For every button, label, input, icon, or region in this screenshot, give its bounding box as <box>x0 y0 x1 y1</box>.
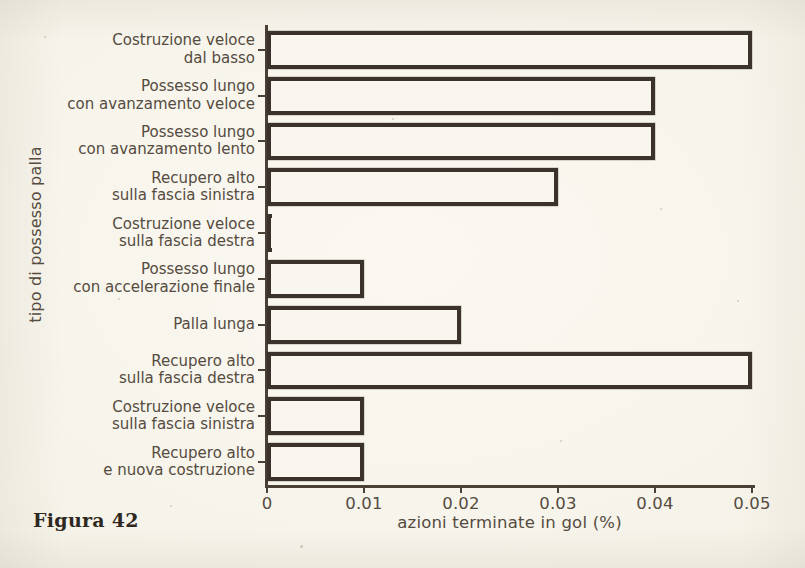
bar-row <box>267 73 752 119</box>
x-axis-tick-label: 0 <box>262 494 273 513</box>
y-axis-tick <box>258 415 267 417</box>
bar-row <box>267 348 752 394</box>
category-label: Possesso lungo con accelerazione finale <box>73 261 261 296</box>
x-axis-tick-label: 0.02 <box>442 494 480 513</box>
y-axis-tick <box>258 369 267 371</box>
bar-row <box>267 439 752 485</box>
bar <box>267 168 558 206</box>
category-label-row: Recupero alto sulla fascia destra <box>25 348 261 394</box>
x-axis-tick-label: 0.03 <box>539 494 577 513</box>
bar-row <box>267 302 752 348</box>
x-axis-tick-label: 0.05 <box>733 494 771 513</box>
category-label: Palla lunga <box>173 316 261 334</box>
x-axis-tick-label: 0.04 <box>636 494 674 513</box>
y-axis-tick <box>258 49 267 51</box>
y-axis-tick <box>258 461 267 463</box>
y-axis-tick <box>258 324 267 326</box>
x-axis-tick <box>751 485 753 493</box>
category-label-row: Possesso lungo con accelerazione finale <box>25 256 261 302</box>
x-axis-tick-label: 0.01 <box>345 494 383 513</box>
category-label-row: Recupero alto sulla fascia sinistra <box>25 164 261 210</box>
category-label: Possesso lungo con avanzamento lento <box>78 124 261 159</box>
category-label: Recupero alto e nuova costruzione <box>103 445 261 480</box>
category-label-row: Costruzione veloce sulla fascia sinistra <box>25 393 261 439</box>
x-axis-line <box>265 485 755 488</box>
category-label: Costruzione veloce sulla fascia destra <box>112 216 261 251</box>
bar-row <box>267 164 752 210</box>
category-label: Costruzione veloce dal basso <box>112 32 261 67</box>
y-axis-title: tipo di possesso palla <box>26 105 45 365</box>
y-axis-tick <box>258 140 267 142</box>
x-axis-tick <box>266 485 268 493</box>
category-label: Recupero alto sulla fascia sinistra <box>112 170 261 205</box>
x-axis-tick <box>557 485 559 493</box>
category-label: Possesso lungo con avanzamento veloce <box>67 78 261 113</box>
x-axis-tick <box>654 485 656 493</box>
bar <box>267 352 752 390</box>
bar <box>267 260 364 298</box>
bar <box>267 397 364 435</box>
bar-row <box>267 210 752 256</box>
category-label-row: Costruzione veloce dal basso <box>25 27 261 73</box>
bar-row <box>267 256 752 302</box>
category-label: Recupero alto sulla fascia destra <box>119 353 261 388</box>
category-axis-labels: Costruzione veloce dal bassoPossesso lun… <box>25 27 261 485</box>
x-axis-title: azioni terminate in gol (%) <box>267 513 752 532</box>
category-label-row: Possesso lungo con avanzamento lento <box>25 119 261 165</box>
plot-area <box>267 27 752 485</box>
bar <box>267 214 272 252</box>
x-axis-tick <box>363 485 365 493</box>
category-label-row: Costruzione veloce sulla fascia destra <box>25 210 261 256</box>
bar-row <box>267 393 752 439</box>
bar-row <box>267 27 752 73</box>
bar <box>267 443 364 481</box>
bar-chart: Costruzione veloce dal bassoPossesso lun… <box>0 0 805 568</box>
y-axis-tick <box>258 95 267 97</box>
y-axis-tick <box>258 278 267 280</box>
x-axis-tick <box>460 485 462 493</box>
bar <box>267 77 655 115</box>
bar <box>267 306 461 344</box>
y-axis-tick <box>258 186 267 188</box>
bar-row <box>267 119 752 165</box>
category-label-row: Recupero alto e nuova costruzione <box>25 439 261 485</box>
category-label: Costruzione veloce sulla fascia sinistra <box>112 399 261 434</box>
category-label-row: Possesso lungo con avanzamento veloce <box>25 73 261 119</box>
bar <box>267 31 752 69</box>
category-label-row: Palla lunga <box>25 302 261 348</box>
bar <box>267 123 655 161</box>
figure-caption: Figura 42 <box>33 509 139 531</box>
y-axis-tick <box>258 232 267 234</box>
